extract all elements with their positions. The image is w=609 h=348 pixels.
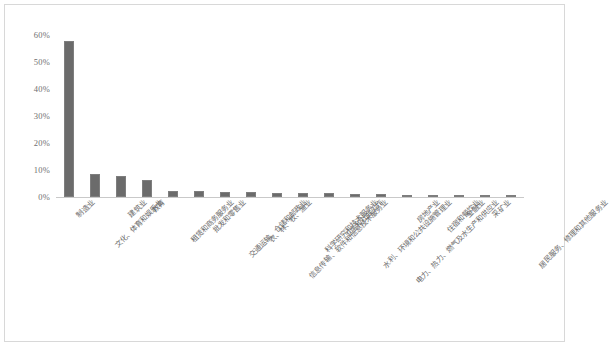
bar — [220, 192, 229, 197]
x-axis-category-labels: 制造业文化、体育和娱乐业建筑业教育租赁和商务服务业批发和零售业交通运输、仓储和邮… — [56, 199, 524, 348]
bar — [272, 193, 281, 197]
bar — [246, 192, 255, 197]
y-tick-label: 40% — [34, 84, 56, 94]
y-tick-label: 10% — [34, 165, 56, 175]
bar — [168, 191, 177, 197]
bar — [324, 193, 333, 197]
y-tick-label: 30% — [34, 111, 56, 121]
bar — [142, 180, 151, 197]
x-tick-label: 农、林、牧、渔业 — [268, 199, 314, 245]
bar — [506, 195, 515, 197]
bar — [64, 41, 73, 197]
plot-area: 0%10%20%30%40%50%60% — [56, 35, 524, 197]
bar — [428, 195, 437, 197]
bar — [194, 191, 203, 197]
bar — [402, 195, 411, 197]
bar — [298, 193, 307, 197]
y-tick-label: 50% — [34, 57, 56, 67]
y-tick-label: 20% — [34, 138, 56, 148]
bar — [454, 195, 463, 197]
bar — [116, 176, 125, 197]
y-tick-label: 0% — [38, 192, 56, 202]
chart-frame: 0%10%20%30%40%50%60% 制造业文化、体育和娱乐业建筑业教育租赁… — [4, 4, 565, 342]
x-axis-line — [56, 197, 524, 198]
x-tick-label: 居民服务、修理和其他服务业 — [538, 199, 609, 270]
bar — [480, 195, 489, 197]
bar — [350, 194, 359, 197]
y-tick-label: 60% — [34, 30, 56, 40]
x-tick-label: 制造业 — [75, 199, 96, 220]
x-tick-label: 卫生和社会工作 — [344, 199, 385, 240]
bar — [90, 174, 99, 197]
